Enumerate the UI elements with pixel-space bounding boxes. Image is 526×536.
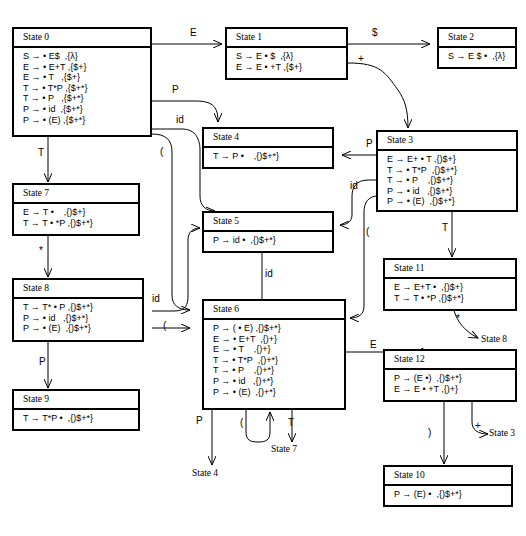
state-title: State 12	[385, 351, 515, 370]
state-items: S → • E$ ,{λ} E → • E+T ,{$+} E → • T ,{…	[14, 48, 150, 128]
edge-label-state6-state7: T	[288, 417, 294, 428]
automaton-diagram: State 0 S → • E$ ,{λ} E → • E+T ,{$+} E …	[0, 0, 526, 536]
item: E → E+ • T ,{)$+}	[387, 154, 516, 165]
item: P → • id ,{$+*}	[23, 104, 150, 115]
edge-label-state0-state7: T	[38, 147, 44, 158]
edge-label-state3-state6: (	[366, 226, 369, 237]
state-items: P → (E) • ,{)$+*}	[385, 486, 511, 503]
state-title: State 5	[204, 213, 332, 232]
item: T → • P ,{)+*}	[213, 365, 344, 376]
state-node-state10[interactable]: State 10 P → (E) • ,{)$+*}	[383, 465, 513, 507]
reference-label-state8[interactable]: State 8	[481, 334, 507, 344]
state-title: State 8	[14, 280, 142, 299]
state-node-state2[interactable]: State 2 S → E $ • ,{λ}	[437, 27, 517, 69]
item: T → T • *P ,{)$+*}	[23, 218, 138, 229]
state-items: P → (E •) ,{)$+*} E → E • +T ,{)+}	[385, 370, 515, 397]
edge-label-state7-state8: *	[39, 245, 43, 256]
item: P → id • ,{)$+*}	[213, 235, 332, 246]
edge-label-state12-state10: )	[428, 427, 431, 438]
edge-label-state11-state8: *	[456, 313, 460, 324]
state-items: E → E+T • ,{)$+} T → T • *P ,{)$+*}	[385, 279, 515, 306]
edge-state0-state6	[152, 134, 190, 310]
item: T → • T*P ,{)$+*}	[387, 165, 516, 176]
state-items: E → T • ,{)$+} T → T • *P ,{)$+*}	[14, 204, 138, 231]
item: P → • id ,{)$+*}	[387, 186, 516, 197]
edge-label-state0-state6: (	[160, 146, 163, 157]
edge-label-state3-state11: T	[442, 222, 448, 233]
state-title: State 2	[439, 29, 515, 48]
state-items: P → id • ,{)$+*}	[204, 232, 332, 249]
state-node-state4[interactable]: State 4 T → P • ,{)$+*}	[202, 127, 334, 169]
state-title: State 4	[204, 129, 332, 148]
state-node-state0[interactable]: State 0 S → • E$ ,{λ} E → • E+T ,{$+} E …	[12, 27, 152, 137]
state-node-state9[interactable]: State 9 T → T*P • ,{)$+*}	[12, 389, 140, 431]
item: T → T • *P ,{)$+*}	[394, 293, 515, 304]
state-title: State 1	[227, 29, 346, 48]
item: E → T • ,{)$+}	[23, 207, 138, 218]
item: T → • P ,{$+*}	[23, 93, 150, 104]
state-items: P → ( • E) ,{)$+*} E → • E+T ,{)+} E → •…	[204, 320, 344, 400]
item: T → T* • P ,{)$+*}	[23, 302, 142, 313]
state-title: State 9	[14, 391, 138, 410]
edge-label-state12-state3: +	[475, 420, 481, 431]
edge-label-state3-state5: id	[350, 180, 358, 191]
edge-label-state0-state1: E	[190, 27, 197, 38]
state-node-state8[interactable]: State 8 T → T* • P ,{)$+*} P → • id ,{)$…	[12, 278, 144, 342]
item: E → • T ,{)+}	[213, 344, 344, 355]
item: P → (E) • ,{)$+*}	[394, 489, 511, 500]
item: P → ( • E) ,{)$+*}	[213, 323, 344, 334]
state-items: S → E $ • ,{λ}	[439, 48, 515, 65]
edge-label-state8-state9: P	[39, 356, 46, 367]
item: P → (E •) ,{)$+*}	[394, 373, 515, 384]
item: T → • T*P ,{)+*}	[213, 355, 344, 366]
edge-state6-state6	[246, 410, 270, 442]
reference-label-state7[interactable]: State 7	[271, 444, 297, 454]
edge-label-state3-state4: P	[366, 138, 373, 149]
state-node-state3[interactable]: State 3 E → E+ • T ,{)$+} T → • T*P ,{)$…	[376, 130, 518, 212]
item: S → E $ • ,{λ}	[448, 51, 515, 62]
state-node-state11[interactable]: State 11 E → E+T • ,{)$+} T → T • *P ,{)…	[383, 258, 517, 311]
item: P → • id ,{)+*}	[213, 376, 344, 387]
state-items: T → T*P • ,{)$+*}	[14, 410, 138, 427]
item: T → T*P • ,{)$+*}	[23, 413, 138, 424]
item: S → • E$ ,{λ}	[23, 51, 150, 62]
item: P → • (E) ,{$+*}	[23, 115, 150, 126]
item: T → P • ,{)$+*}	[213, 151, 332, 162]
state-items: T → P • ,{)$+*}	[204, 148, 332, 165]
state-title: State 6	[204, 301, 344, 320]
item: E → E • +T ,{)+}	[394, 384, 515, 395]
edge-label-state1-state3: +	[358, 53, 364, 64]
state-node-state12[interactable]: State 12 P → (E •) ,{)$+*} E → E • +T ,{…	[383, 349, 517, 402]
state-node-state6[interactable]: State 6 P → ( • E) ,{)$+*} E → • E+T ,{)…	[202, 299, 346, 410]
state-node-state5[interactable]: State 5 P → id • ,{)$+*}	[202, 211, 334, 253]
edge-label-state8-state6: (	[163, 320, 166, 331]
item: S → E • $ ,{λ}	[236, 51, 346, 62]
edge-label-state6-state5: id	[265, 268, 273, 279]
edge-label-state8-state5: id	[152, 293, 160, 304]
state-node-state1[interactable]: State 1 S → E • $ ,{λ} E → E • +T ,{$+}	[225, 27, 348, 80]
edge-label-state0-state5: id	[176, 114, 184, 125]
item: P → • (E) ,{)$+*}	[387, 196, 516, 207]
item: T → • T*P ,{$+*}	[23, 83, 150, 94]
item: E → E • +T ,{$+}	[236, 62, 346, 73]
item: P → • id ,{)$+*}	[23, 313, 142, 324]
item: E → • E+T ,{)+}	[213, 334, 344, 345]
reference-label-state4[interactable]: State 4	[192, 468, 218, 478]
edge-label-state6-state4: P	[196, 415, 203, 426]
state-title: State 7	[14, 185, 138, 204]
edge-state1-state3	[348, 63, 408, 128]
edge-label-state1-state2: $	[372, 27, 378, 38]
state-title: State 10	[385, 467, 511, 486]
item: E → • T ,{$+}	[23, 72, 150, 83]
state-items: E → E+ • T ,{)$+} T → • T*P ,{)$+*} T → …	[378, 151, 516, 210]
state-title: State 11	[385, 260, 515, 279]
state-items: S → E • $ ,{λ} E → E • +T ,{$+}	[227, 48, 346, 75]
state-items: T → T* • P ,{)$+*} P → • id ,{)$+*} P → …	[14, 299, 142, 337]
state-title: State 0	[14, 29, 150, 48]
item: T → • P ,{)$+*}	[387, 175, 516, 186]
state-node-state7[interactable]: State 7 E → T • ,{)$+} T → T • *P ,{)$+*…	[12, 183, 140, 236]
reference-label-state3[interactable]: State 3	[489, 428, 515, 438]
edge-state0-state4	[152, 101, 218, 122]
edge-label-state6-state12: E	[370, 339, 377, 350]
item: P → • (E) ,{)+*}	[213, 387, 344, 398]
